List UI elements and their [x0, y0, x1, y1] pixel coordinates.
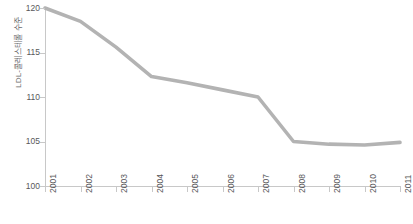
y-axis-tick-label: 100: [14, 182, 40, 191]
x-axis-tick-label: 2004: [156, 174, 165, 193]
y-axis-tick-mark: [40, 8, 45, 9]
x-axis-tick-label: 2005: [191, 174, 200, 193]
x-axis-tick-mark: [258, 187, 259, 192]
x-axis-tick-label: 2003: [120, 174, 129, 193]
y-axis-tick-label: 120: [14, 4, 40, 13]
x-axis-tick-mark: [152, 187, 153, 192]
y-axis-line: [45, 8, 46, 187]
y-axis-tick-label: 105: [14, 137, 40, 146]
x-axis-tick-label: 2006: [227, 174, 236, 193]
x-axis-tick-label: 2010: [369, 174, 378, 193]
x-axis-tick-label: 2009: [333, 174, 342, 193]
y-axis-tick-labels: 100105110115120: [14, 0, 40, 224]
x-axis-tick-mark: [400, 187, 401, 192]
y-axis-tick-label: 115: [14, 48, 40, 57]
y-axis-tick-label: 110: [14, 93, 40, 102]
y-axis-tick-mark: [40, 142, 45, 143]
x-axis-tick-label: 2007: [262, 174, 271, 193]
x-axis-tick-label: 2008: [298, 174, 307, 193]
x-axis-tick-mark: [45, 187, 46, 192]
x-axis-tick-label: 2011: [404, 175, 413, 193]
x-axis-tick-mark: [365, 187, 366, 192]
x-axis-tick-mark: [294, 187, 295, 192]
x-axis-tick-label: 2001: [49, 174, 58, 193]
y-axis-tick-mark: [40, 53, 45, 54]
series-line-ldl: [45, 8, 400, 145]
x-axis-tick-mark: [81, 187, 82, 192]
x-axis-tick-mark: [223, 187, 224, 192]
x-axis-tick-label: 2002: [85, 174, 94, 193]
x-axis-tick-mark: [116, 187, 117, 192]
watermark-text: [150, 6, 400, 20]
x-axis-tick-mark: [329, 187, 330, 192]
x-axis-tick-mark: [187, 187, 188, 192]
y-axis-tick-mark: [40, 97, 45, 98]
